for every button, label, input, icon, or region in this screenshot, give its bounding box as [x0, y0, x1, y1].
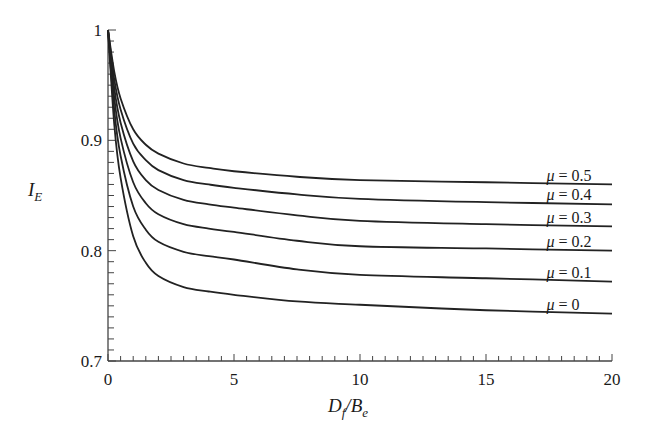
x-tick-label: 5	[230, 370, 239, 389]
y-axis-label: IE	[27, 179, 42, 204]
series-line-4	[108, 30, 612, 282]
series-label-0: μ = 0.5	[545, 167, 591, 185]
y-axis-label-sub: E	[33, 189, 42, 204]
x-axis-label: Df/Be	[327, 395, 368, 420]
series-label-4: μ = 0.1	[545, 264, 591, 282]
series-line-0	[108, 30, 612, 184]
chart: 051015200.70.80.91 μ = 0.5μ = 0.4μ = 0.3…	[0, 0, 647, 448]
series-label-2: μ = 0.3	[545, 209, 591, 227]
x-tick-label: 0	[104, 370, 113, 389]
y-tick-label: 0.8	[81, 242, 102, 261]
curves	[108, 30, 612, 314]
x-axis-label-D: D	[327, 395, 342, 416]
series-label-3: μ = 0.2	[545, 233, 591, 251]
series-line-5	[108, 30, 612, 314]
series-line-2	[108, 30, 612, 226]
x-tick-label: 15	[478, 370, 495, 389]
x-tick-label: 20	[604, 370, 621, 389]
x-tick-label: 10	[352, 370, 369, 389]
x-axis-label-e: e	[362, 405, 368, 420]
series-line-3	[108, 30, 612, 251]
y-tick-label: 1	[94, 21, 103, 40]
y-tick-label: 0.9	[81, 131, 102, 150]
x-axis-label-B: B	[351, 395, 363, 416]
y-tick-label: 0.7	[81, 352, 103, 371]
series-label-5: μ = 0	[545, 296, 579, 314]
series-labels: μ = 0.5μ = 0.4μ = 0.3μ = 0.2μ = 0.1μ = 0	[545, 167, 591, 314]
series-line-1	[108, 30, 612, 204]
tick-labels: 051015200.70.80.91	[81, 21, 621, 389]
series-label-1: μ = 0.4	[545, 186, 591, 204]
